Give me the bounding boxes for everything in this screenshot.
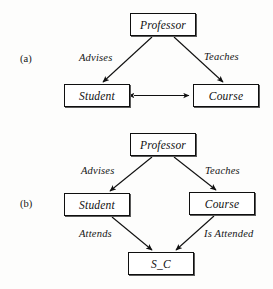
entity-box-student-b[interactable]: Student — [64, 193, 130, 216]
entity-box-s-c-b[interactable]: S_C — [128, 252, 194, 275]
panel-label-b: (b) — [20, 198, 32, 209]
edge-advises-b — [110, 157, 152, 191]
edge-label-advises-a: Advises — [79, 52, 112, 63]
entity-box-professor-b[interactable]: Professor — [130, 133, 196, 156]
edge-label-teaches-b: Teaches — [205, 165, 240, 176]
entity-box-course-b[interactable]: Course — [189, 192, 255, 215]
edge-attends-b — [112, 217, 152, 250]
entity-box-course-a[interactable]: Course — [193, 84, 259, 107]
edge-label-attends-b: Attends — [79, 228, 112, 239]
edge-label-teaches-a: Teaches — [204, 51, 239, 62]
edge-label-is-attended-b: Is Attended — [204, 228, 254, 239]
er-diagram-figure: (a) Professor Student Course Advises Tea… — [0, 0, 273, 289]
entity-box-student-a[interactable]: Student — [64, 84, 130, 107]
entity-box-professor-a[interactable]: Professor — [130, 13, 196, 36]
edge-label-advises-b: Advises — [81, 165, 114, 176]
panel-label-a: (a) — [20, 53, 32, 64]
